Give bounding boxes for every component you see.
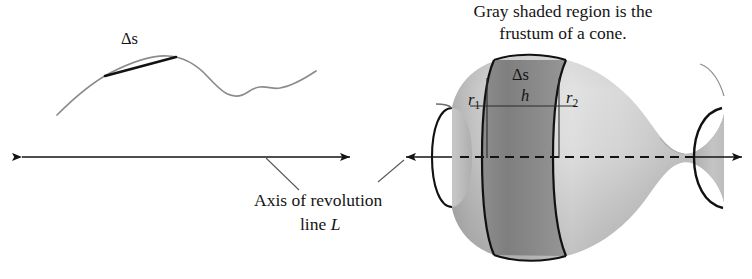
frustum-caption-line1: Gray shaded region is the <box>474 1 653 21</box>
axis-annotation-line1: Axis of revolution <box>254 190 383 210</box>
right-opening-top-lip <box>700 64 724 96</box>
left-panel-group: Δs <box>22 29 350 190</box>
frustum-caption-line2: frustum of a cone. <box>499 23 626 43</box>
plane-curve <box>57 56 316 115</box>
frustum-height-label: h <box>521 86 529 105</box>
figure-root: Δs <box>0 0 752 279</box>
right-panel-group: Δs h r1 r2 <box>378 55 742 261</box>
axis-leader-line <box>266 158 299 190</box>
figure-canvas: Δs <box>0 0 752 279</box>
right-axis-leader-line <box>378 160 404 182</box>
axis-annotation-line2: line L <box>300 214 340 234</box>
left-delta-s-label: Δs <box>121 29 138 48</box>
frustum-delta-s-label: Δs <box>512 65 529 84</box>
